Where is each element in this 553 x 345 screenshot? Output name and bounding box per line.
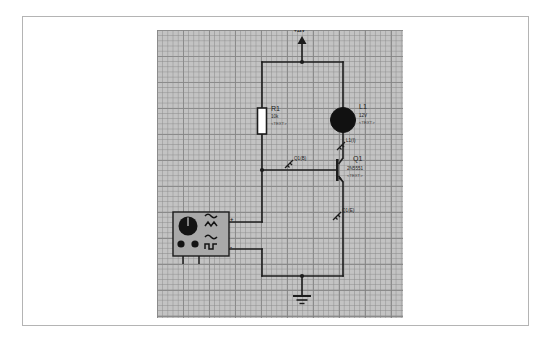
l1-value-label[interactable]: 12V	[359, 114, 367, 119]
wire-network	[229, 44, 343, 296]
lamp-symbol[interactable]	[331, 108, 356, 133]
l1-text-label[interactable]: <TEXT>	[359, 121, 375, 125]
schematic-drawing	[157, 30, 403, 318]
ground-symbol[interactable]	[293, 296, 311, 304]
screenshot-root: +12V R1 10k <TEXT> L1 12V <TEXT> Q1 2N55…	[0, 0, 553, 345]
schematic-canvas[interactable]: +12V R1 10k <TEXT> L1 12V <TEXT> Q1 2N55…	[157, 30, 403, 318]
resistor-symbol[interactable]	[258, 108, 267, 134]
q1-text-label[interactable]: <TEXT>	[347, 174, 363, 178]
q1-value-label[interactable]: 2N5551	[347, 167, 363, 172]
generator-minus-terminal-label: -	[230, 244, 232, 250]
supply-label: +12V	[294, 30, 305, 34]
function-generator-icon[interactable]	[173, 212, 229, 264]
r1-ref-label[interactable]: R1	[271, 105, 280, 112]
wire-junctions	[260, 60, 304, 278]
r1-value-label[interactable]: 10k	[271, 115, 278, 120]
probe-q1-e-icon[interactable]	[333, 212, 341, 220]
junction-ground	[300, 274, 304, 278]
generator-plus-terminal-label: +	[230, 216, 234, 222]
junction-vcc	[300, 60, 304, 64]
r1-text-label[interactable]: <TEXT>	[271, 122, 287, 126]
probe-l1-label[interactable]: L1(I)	[346, 139, 355, 144]
probe-q1-e-label[interactable]: Q1(E)	[342, 209, 354, 214]
probe-q1-b-label[interactable]: Q1(B)	[294, 157, 306, 162]
l1-ref-label[interactable]: L1	[359, 103, 367, 110]
q1-ref-label[interactable]: Q1	[353, 155, 362, 162]
npn-transistor-symbol[interactable]	[336, 158, 343, 182]
vcc-arrow-icon[interactable]	[298, 36, 307, 44]
probe-q1-b-icon[interactable]	[285, 160, 293, 168]
junction-base	[260, 168, 264, 172]
